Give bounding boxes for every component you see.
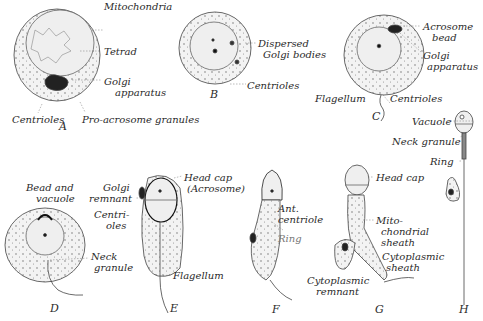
label-neck-2: granule (94, 262, 133, 273)
stage-e: E (170, 302, 178, 315)
cell-b (179, 12, 251, 84)
label-ring-h: Ring (430, 156, 454, 167)
stage-h: H (459, 303, 469, 316)
label-neck-granule-h: Neck granule (392, 136, 461, 147)
stage-a: A (59, 120, 67, 133)
label-centrioles-b: Centrioles (247, 80, 299, 91)
stage-c: C (372, 110, 380, 123)
label-centrioles-c: Centrioles (390, 93, 442, 104)
label-cyto-sheath-1: Cytoplasmic (382, 251, 444, 262)
label-head-cap-g: Head cap (376, 172, 424, 183)
stage-d: D (50, 302, 59, 315)
label-bead-vacuole-1: Bead and (26, 182, 74, 193)
label-mito-sheath-1: Mito- (376, 215, 403, 226)
stage-g: G (375, 303, 384, 316)
label-centrioles-e-1: Centri- (94, 209, 129, 220)
label-ant-centriole-2: centriole (278, 214, 323, 225)
label-cyto-remnant-2: remnant (316, 286, 359, 297)
label-golgi-c-1: Golgi (423, 50, 450, 61)
label-cyto-sheath-2: sheath (386, 262, 420, 273)
label-mito-sheath-3: sheath (381, 237, 415, 248)
label-golgi-a-1: Golgi (104, 76, 131, 87)
label-mito-sheath-2: chondrial (381, 226, 429, 237)
cell-c (344, 15, 424, 121)
label-cyto-remnant-1: Cytoplasmic (307, 275, 369, 286)
label-pro-acrosome: Pro-acrosome granules (82, 114, 199, 125)
label-acrosome-bead-2: bead (432, 32, 457, 43)
label-golgi-bodies: Golgi bodies (263, 49, 326, 60)
label-golgi-a-2: apparatus (115, 87, 166, 98)
stage-f: F (272, 303, 280, 316)
label-neck-1: Neck (91, 251, 117, 262)
label-acrosome-bead-1: Acrosome (423, 21, 473, 32)
label-mitochondria: Mitochondria (104, 1, 172, 12)
label-ring-f: Ring (278, 233, 302, 244)
label-centrioles-e-2: oles (106, 220, 126, 231)
cell-e (139, 176, 183, 313)
label-flagellum-c: Flagellum (315, 93, 366, 104)
label-bead-vacuole-2: vacuole (36, 193, 75, 204)
label-flagellum-e: Flagellum (173, 270, 224, 281)
label-golgi-remnant-2: remnant (89, 193, 132, 204)
label-ant-centriole-1: Ant. (278, 203, 299, 214)
spermiogenesis-figure: Mitochondria Tetrad Golgi apparatus Cent… (0, 0, 483, 321)
cell-d (5, 208, 85, 295)
label-centrioles-a: Centrioles (12, 114, 64, 125)
label-golgi-remnant-1: Golgi (103, 182, 130, 193)
label-dispersed: Dispersed (258, 38, 309, 49)
label-tetrad: Tetrad (104, 46, 137, 57)
stage-b: B (210, 88, 218, 101)
label-golgi-c-2: apparatus (427, 61, 478, 72)
label-vacuole: Vacuole (412, 116, 451, 127)
cell-a (14, 9, 100, 101)
label-head-cap-e-1: Head cap (184, 172, 232, 183)
label-head-cap-e-2: (Acrosome) (187, 183, 245, 194)
